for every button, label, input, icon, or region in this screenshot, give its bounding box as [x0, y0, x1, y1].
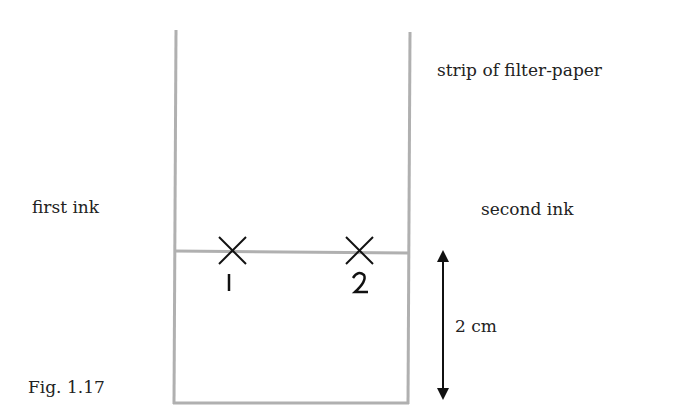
spot-numbers	[229, 273, 368, 292]
filter-paper-strip	[173, 30, 410, 404]
first-ink-label: first ink	[32, 197, 99, 217]
baseline	[174, 251, 408, 253]
distance-label: 2 cm	[455, 316, 497, 336]
spot-number-2	[353, 273, 368, 292]
strip-label: strip of filter-paper	[437, 60, 602, 80]
distance-arrow	[437, 250, 449, 400]
second-ink-label: second ink	[481, 199, 573, 219]
figure-caption: Fig. 1.17	[28, 377, 105, 397]
